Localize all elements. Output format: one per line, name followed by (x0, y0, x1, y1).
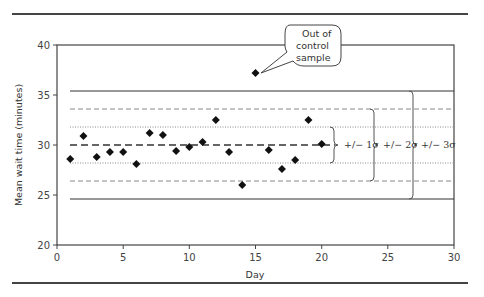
y-tick-35: 35 (37, 90, 50, 101)
data-point-diamond-icon (252, 69, 260, 77)
control-chart: 40 35 30 25 20 0 5 10 15 20 25 30 Day Me… (0, 0, 484, 297)
y-tick-30: 30 (37, 140, 50, 151)
x-tick-10: 10 (183, 252, 196, 263)
data-point-diamond-icon (238, 181, 246, 189)
y-tick-25: 25 (37, 190, 50, 201)
sigma3-label: +/− 3σ (421, 139, 456, 150)
x-tick-15: 15 (249, 252, 262, 263)
data-point-diamond-icon (172, 147, 180, 155)
data-point-diamond-icon (212, 116, 220, 124)
data-point-diamond-icon (225, 148, 233, 156)
x-tick-30: 30 (448, 252, 461, 263)
data-point-diamond-icon (304, 116, 312, 124)
data-point-diamond-icon (106, 148, 114, 156)
data-point-diamond-icon (79, 132, 87, 140)
data-point-diamond-icon (318, 140, 326, 148)
x-tick-25: 25 (381, 252, 394, 263)
data-point-diamond-icon (93, 153, 101, 161)
y-tick-40: 40 (37, 40, 50, 51)
data-point-diamond-icon (66, 155, 74, 163)
sigma2-label: +/− 2σ (383, 139, 418, 150)
x-tick-5: 5 (120, 252, 126, 263)
callout-line1: Out of (302, 28, 332, 39)
y-axis-title: Mean wait time (minutes) (13, 84, 24, 206)
data-point-diamond-icon (146, 129, 154, 137)
x-axis (57, 245, 454, 249)
out-of-control-callout: Out of control sample (261, 24, 341, 73)
y-tick-20: 20 (37, 240, 50, 251)
x-axis-title: Day (246, 269, 265, 280)
callout-line2: control (296, 40, 329, 51)
data-point-diamond-icon (119, 148, 127, 156)
data-point-diamond-icon (265, 146, 273, 154)
data-point-diamond-icon (159, 131, 167, 139)
data-point-diamond-icon (132, 160, 140, 168)
data-point-diamond-icon (185, 143, 193, 151)
sigma1-label: +/− 1σ (344, 139, 379, 150)
x-tick-20: 20 (315, 252, 328, 263)
data-point-diamond-icon (278, 165, 286, 173)
callout-line3: sample (296, 52, 331, 63)
x-tick-0: 0 (54, 252, 60, 263)
data-points (66, 69, 325, 189)
